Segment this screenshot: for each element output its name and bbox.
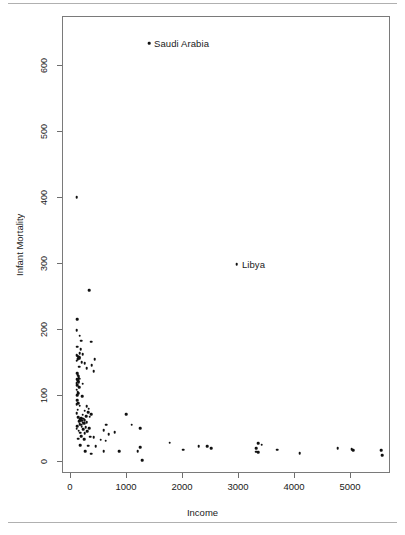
data-point	[79, 431, 82, 434]
y-tick-mark	[57, 263, 62, 264]
y-tick-label: 200	[38, 317, 49, 341]
data-point	[236, 263, 239, 266]
data-point	[90, 340, 93, 343]
y-axis-title: Infant Mortality	[14, 203, 25, 287]
data-point	[91, 364, 94, 367]
data-point	[86, 430, 89, 433]
x-tick-label: 5000	[339, 481, 360, 492]
data-point	[88, 427, 91, 430]
data-point	[81, 395, 84, 398]
data-point	[78, 334, 81, 337]
y-tick-label: 400	[38, 185, 49, 209]
data-point	[148, 42, 151, 45]
data-point	[136, 450, 139, 453]
data-point	[75, 329, 78, 332]
data-point	[92, 370, 95, 373]
data-point	[84, 426, 87, 429]
y-tick-label: 100	[38, 383, 49, 407]
data-point	[87, 408, 90, 411]
y-tick-label: 300	[38, 251, 49, 275]
data-point	[107, 433, 110, 436]
point-label: Libya	[242, 259, 265, 270]
data-point	[82, 382, 85, 385]
data-point	[182, 448, 185, 451]
data-point	[85, 415, 88, 418]
data-point	[257, 442, 260, 445]
figure-page: Saudi ArabiaLibya 0100200300400500600 01…	[0, 0, 405, 535]
data-point	[255, 447, 258, 450]
x-tick-label: 1000	[115, 481, 136, 492]
data-point	[86, 367, 89, 370]
data-point	[87, 445, 90, 448]
data-point	[82, 353, 85, 356]
page-rule-bottom	[8, 522, 397, 523]
data-point	[76, 318, 79, 321]
x-tick-mark	[350, 473, 351, 478]
x-tick-mark	[238, 473, 239, 478]
data-point	[139, 446, 142, 449]
y-tick-mark	[57, 461, 62, 462]
data-point	[89, 435, 92, 438]
data-point	[79, 404, 82, 407]
data-point	[77, 408, 80, 411]
data-point	[380, 449, 383, 452]
data-point	[206, 445, 209, 448]
data-point	[130, 423, 133, 426]
data-point	[75, 359, 78, 362]
data-point	[79, 444, 82, 447]
data-point	[90, 452, 93, 455]
point-label: Saudi Arabia	[154, 38, 209, 49]
data-point	[89, 415, 92, 418]
y-tick-mark	[57, 65, 62, 66]
data-point	[88, 289, 91, 292]
scatter-figure: Saudi ArabiaLibya 0100200300400500600 01…	[0, 8, 405, 518]
data-point	[75, 196, 78, 199]
x-tick-label: 0	[67, 481, 72, 492]
data-point	[139, 427, 142, 430]
data-point	[276, 448, 279, 451]
plot-area: Saudi ArabiaLibya	[62, 16, 390, 473]
data-point	[381, 454, 384, 457]
data-point	[79, 348, 82, 351]
data-point	[93, 358, 96, 361]
x-tick-mark	[70, 473, 71, 478]
x-axis-title: Income	[0, 507, 405, 518]
data-point	[76, 394, 79, 397]
data-point	[118, 450, 121, 453]
data-point	[168, 441, 171, 444]
x-tick-label: 2000	[171, 481, 192, 492]
data-point	[84, 450, 87, 453]
data-point	[298, 452, 301, 455]
data-point	[94, 445, 97, 448]
data-point	[125, 413, 128, 416]
x-tick-mark	[126, 473, 127, 478]
y-tick-label: 0	[38, 449, 49, 473]
data-point	[352, 449, 355, 452]
data-point	[102, 429, 105, 432]
data-point	[84, 432, 87, 435]
data-point	[78, 365, 81, 368]
data-point	[105, 439, 108, 442]
data-point	[99, 439, 102, 442]
data-point	[105, 423, 108, 426]
data-point	[75, 412, 78, 415]
page-rule-top	[8, 3, 397, 4]
data-point	[198, 445, 201, 448]
y-tick-mark	[57, 329, 62, 330]
y-tick-label: 600	[38, 53, 49, 77]
data-point	[260, 443, 263, 446]
data-point	[80, 435, 83, 438]
data-point	[77, 437, 80, 440]
y-tick-mark	[57, 197, 62, 198]
data-point	[336, 447, 339, 450]
data-point	[76, 346, 79, 349]
x-tick-label: 4000	[283, 481, 304, 492]
x-tick-mark	[294, 473, 295, 478]
data-point	[87, 411, 90, 414]
data-point	[80, 340, 83, 343]
data-point	[257, 451, 260, 454]
data-point	[86, 421, 89, 424]
x-tick-label: 3000	[227, 481, 248, 492]
data-point	[82, 428, 85, 431]
data-point	[102, 450, 105, 453]
